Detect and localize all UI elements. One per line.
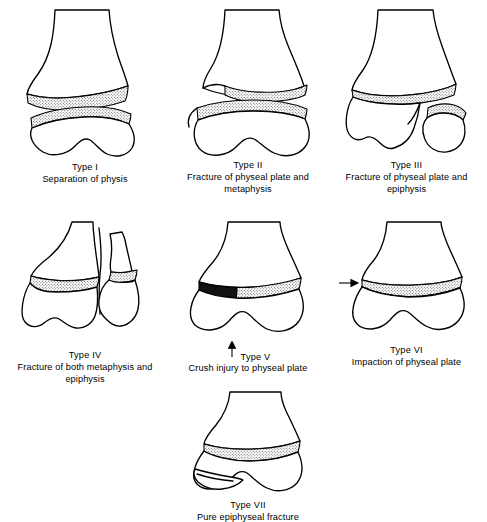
illustration-type-5 bbox=[173, 222, 323, 340]
panel-type-4: Type IV Fracture of both metaphysis and … bbox=[0, 222, 170, 385]
panel-type-5: Type V Crush injury to physeal plate bbox=[168, 222, 328, 375]
caption-title-type-1: Type I bbox=[0, 162, 170, 174]
arrow-right-icon-type-6 bbox=[339, 280, 358, 287]
illustration-type-1 bbox=[10, 8, 160, 158]
panel-type-7: Type VII Pure epiphyseal fracture bbox=[163, 392, 333, 522]
illustration-type-2 bbox=[173, 8, 323, 158]
salter-harris-figure: Type I Separation of physis bbox=[0, 0, 487, 522]
caption-title-type-4: Type IV bbox=[0, 350, 170, 362]
caption-desc-type-4-line-2: epiphysis bbox=[0, 374, 170, 386]
caption-desc-type-1: Separation of physis bbox=[0, 174, 170, 186]
caption-desc-type-3-line-2: epiphysis bbox=[326, 184, 487, 196]
caption-desc-type-2-line-2: metaphysis bbox=[168, 184, 328, 196]
caption-type-5: Type V Crush injury to physeal plate bbox=[168, 341, 328, 375]
caption-desc-type-5: Crush injury to physeal plate bbox=[168, 363, 328, 375]
caption-title-type-3: Type III bbox=[326, 160, 487, 172]
caption-desc-type-6: Impaction of physeal plate bbox=[326, 357, 487, 369]
caption-type-7: Type VII Pure epiphyseal fracture bbox=[163, 500, 333, 522]
caption-title-type-6: Type VI bbox=[326, 345, 487, 357]
panel-type-3: Type III Fracture of physeal plate and e… bbox=[326, 8, 487, 195]
caption-desc-type-3-line-1: Fracture of physeal plate and bbox=[326, 172, 487, 184]
caption-type-3: Type III Fracture of physeal plate and e… bbox=[326, 160, 487, 195]
caption-type-6: Type VI Impaction of physeal plate bbox=[326, 345, 487, 369]
illustration-type-4 bbox=[10, 222, 160, 347]
caption-title-type-2: Type II bbox=[168, 160, 328, 172]
caption-type-2: Type II Fracture of physeal plate and me… bbox=[168, 160, 328, 195]
caption-title-type-7: Type VII bbox=[163, 500, 333, 512]
caption-desc-type-2-line-1: Fracture of physeal plate and bbox=[168, 172, 328, 184]
caption-desc-type-7: Pure epiphyseal fracture bbox=[163, 512, 333, 522]
illustration-type-6 bbox=[332, 222, 482, 340]
caption-title-type-5: Type V bbox=[241, 352, 271, 364]
illustration-type-7 bbox=[173, 392, 323, 497]
panel-type-6: Type VI Impaction of physeal plate bbox=[326, 222, 487, 369]
caption-desc-type-4-line-1: Fracture of both metaphysis and bbox=[0, 362, 170, 374]
illustration-type-3 bbox=[332, 8, 482, 158]
arrow-up-icon-type-5 bbox=[226, 341, 238, 363]
panel-type-2: Type II Fracture of physeal plate and me… bbox=[168, 8, 328, 195]
caption-type-4: Type IV Fracture of both metaphysis and … bbox=[0, 350, 170, 385]
panel-type-1: Type I Separation of physis bbox=[0, 8, 170, 186]
caption-type-1: Type I Separation of physis bbox=[0, 162, 170, 186]
